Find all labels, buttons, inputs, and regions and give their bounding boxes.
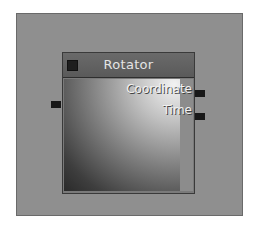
input-port[interactable] <box>51 101 61 108</box>
output-label-coordinate: Coordinate <box>126 82 192 96</box>
output-port-coordinate[interactable] <box>195 90 205 97</box>
output-port-time[interactable] <box>195 113 205 120</box>
rotator-node[interactable]: Rotator Coordinate Time <box>62 52 195 194</box>
node-header[interactable]: Rotator <box>63 53 194 78</box>
node-title: Rotator <box>63 57 194 72</box>
output-label-time: Time <box>163 103 192 117</box>
